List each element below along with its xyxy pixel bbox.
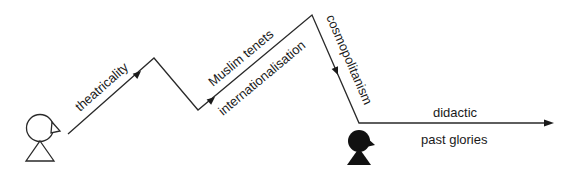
label-theatricality: theatricality <box>72 59 132 114</box>
label-didactic: didactic <box>433 105 478 120</box>
trajectory-path <box>68 15 550 134</box>
trajectory-diagram: theatricality Muslim tenets internationa… <box>0 0 584 182</box>
label-past-glories: past glories <box>421 132 488 147</box>
arrowhead-icon <box>332 66 342 76</box>
open-figure-icon <box>26 115 60 162</box>
arrowhead-end-icon <box>544 120 554 127</box>
arrowhead-icon <box>133 68 144 79</box>
filled-figure-icon <box>347 130 375 165</box>
